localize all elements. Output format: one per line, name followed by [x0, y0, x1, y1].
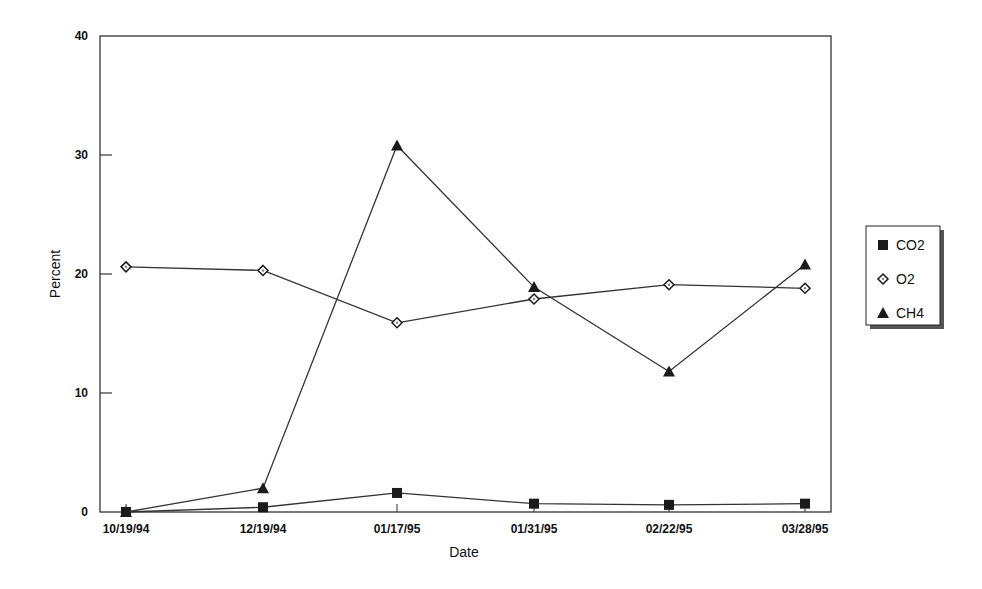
triangle-marker	[799, 258, 811, 269]
square-marker	[878, 240, 888, 250]
square-marker	[392, 488, 402, 498]
line-chart: 010203040 10/19/9412/19/9401/17/9501/31/…	[0, 0, 982, 589]
triangle-marker	[663, 366, 675, 377]
x-axis-label: Date	[449, 544, 479, 560]
y-axis-label: Percent	[47, 250, 63, 298]
x-tick-label: 10/19/94	[103, 522, 150, 536]
legend-label-ch4: CH4	[896, 305, 924, 321]
legend: CO2O2CH4	[866, 226, 944, 329]
y-tick-label: 30	[75, 148, 89, 162]
x-tick-label: 02/22/95	[646, 522, 693, 536]
series-line	[126, 493, 805, 512]
diamond-center	[396, 321, 399, 324]
series-line	[126, 145, 805, 512]
x-tick-label: 12/19/94	[240, 522, 287, 536]
series-o2	[121, 262, 810, 328]
legend-label-co2: CO2	[896, 237, 925, 253]
x-tick-label: 01/31/95	[511, 522, 558, 536]
y-tick-label: 0	[81, 505, 88, 519]
square-marker	[664, 500, 674, 510]
diamond-center	[804, 287, 807, 290]
square-marker	[258, 502, 268, 512]
triangle-marker	[391, 139, 403, 150]
square-marker	[529, 499, 539, 509]
series-ch4	[120, 139, 811, 517]
legend-label-o2: O2	[896, 271, 915, 287]
plot-border	[100, 36, 831, 512]
x-tick-label: 01/17/95	[374, 522, 421, 536]
y-tick-label: 40	[75, 29, 89, 43]
diamond-center	[668, 283, 671, 286]
y-tick-label: 10	[75, 386, 89, 400]
x-tick-label: 03/28/95	[782, 522, 829, 536]
plot-frame	[100, 36, 831, 512]
data-series	[120, 139, 811, 517]
diamond-center	[125, 266, 128, 269]
diamond-center	[262, 269, 265, 272]
square-marker	[800, 499, 810, 509]
diamond-center	[533, 298, 536, 301]
y-tick-label: 20	[75, 267, 89, 281]
series-line	[126, 267, 805, 323]
diamond-center	[882, 278, 885, 281]
triangle-marker	[257, 482, 269, 493]
y-axis: 010203040	[75, 29, 112, 519]
